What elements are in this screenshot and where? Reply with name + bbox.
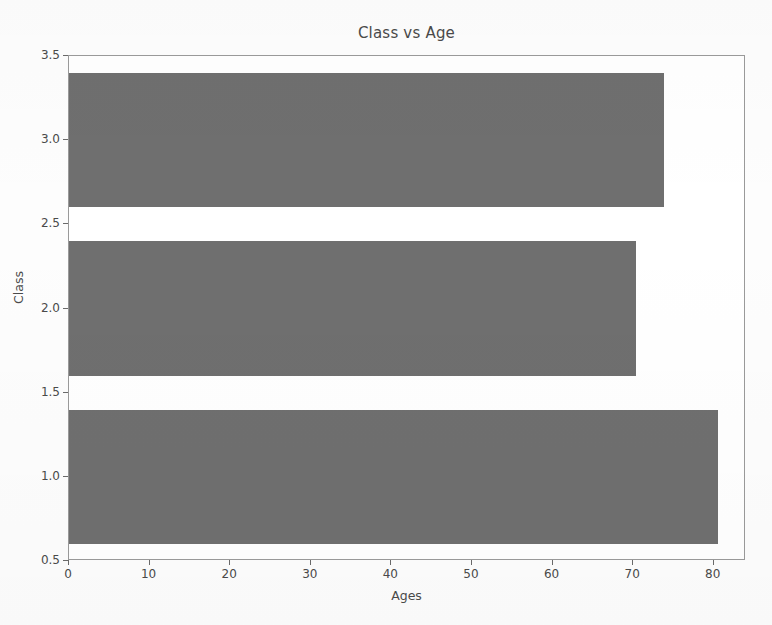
y-tick-2.5 — [63, 223, 68, 224]
y-tick-0.5 — [63, 560, 68, 561]
y-axis-label: Class — [11, 258, 26, 318]
y-tick-3.5 — [63, 55, 68, 56]
x-tick-50 — [471, 560, 472, 565]
x-tick-label-60: 60 — [544, 567, 559, 581]
y-tick-2.0 — [63, 308, 68, 309]
x-tick-label-50: 50 — [463, 567, 478, 581]
screenshot-canvas: Class vs Age 010203040506070800.51.01.52… — [0, 0, 772, 625]
plot-area — [68, 55, 745, 560]
x-tick-label-20: 20 — [222, 567, 237, 581]
x-tick-label-80: 80 — [705, 567, 720, 581]
y-tick-label-2.0: 2.0 — [20, 301, 60, 315]
bar-class-3 — [69, 73, 664, 208]
y-tick-1.5 — [63, 392, 68, 393]
y-tick-label-1.5: 1.5 — [20, 385, 60, 399]
x-tick-label-0: 0 — [64, 567, 72, 581]
x-tick-10 — [149, 560, 150, 565]
x-tick-label-70: 70 — [625, 567, 640, 581]
x-tick-80 — [713, 560, 714, 565]
x-tick-40 — [390, 560, 391, 565]
bar-class-2 — [69, 241, 636, 376]
y-tick-label-3.0: 3.0 — [20, 132, 60, 146]
y-tick-label-3.5: 3.5 — [20, 48, 60, 62]
y-tick-label-0.5: 0.5 — [20, 553, 60, 567]
x-tick-0 — [68, 560, 69, 565]
x-tick-label-30: 30 — [302, 567, 317, 581]
x-tick-label-40: 40 — [383, 567, 398, 581]
x-axis-label: Ages — [68, 588, 745, 603]
x-tick-label-10: 10 — [141, 567, 156, 581]
x-tick-60 — [552, 560, 553, 565]
y-tick-label-1.0: 1.0 — [20, 469, 60, 483]
x-tick-20 — [229, 560, 230, 565]
y-tick-3.0 — [63, 139, 68, 140]
x-tick-30 — [310, 560, 311, 565]
bar-chart-figure: Class vs Age 010203040506070800.51.01.52… — [0, 0, 772, 625]
bar-class-1 — [69, 410, 718, 545]
y-tick-1.0 — [63, 476, 68, 477]
x-tick-70 — [632, 560, 633, 565]
chart-title: Class vs Age — [68, 24, 745, 42]
y-tick-label-2.5: 2.5 — [20, 216, 60, 230]
